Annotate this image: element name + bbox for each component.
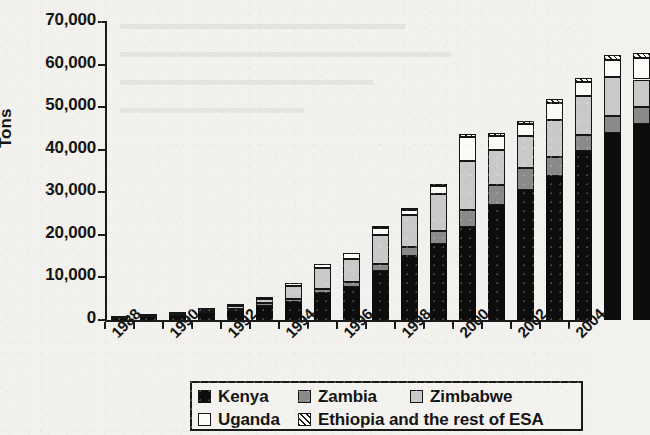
legend-label-kenya: Kenya [218, 387, 269, 407]
bar-segment-zimbabwe [227, 306, 244, 309]
y-axis-tick [98, 106, 105, 108]
bar-segment-uganda [140, 314, 157, 316]
bar-segment-uganda [517, 124, 534, 136]
x-axis-tick [481, 322, 483, 329]
bar-column [575, 78, 592, 320]
bar-segment-zambia [285, 299, 302, 302]
chart-legend: Kenya Zambia Zimbabwe Uganda Ethiopia an… [190, 381, 583, 431]
bar-segment-kenya [430, 244, 447, 320]
bar-segment-zimbabwe [517, 136, 534, 168]
legend-swatch-zambia-icon [298, 390, 311, 403]
bar-segment-kenya [488, 205, 505, 320]
legend-label-zimbabwe: Zimbabwe [430, 387, 512, 407]
bar-segment-zambia [227, 309, 244, 311]
bar-segment-uganda [169, 312, 186, 314]
bar-column [604, 55, 621, 320]
bar-segment-uganda [111, 316, 128, 318]
bar-segment-kenya [314, 293, 331, 320]
y-axis-tick-label: 50,000 [4, 95, 96, 115]
y-axis-tick-label: 10,000 [4, 265, 96, 285]
bar-segment-uganda [256, 297, 273, 299]
bar-segment-kenya [401, 256, 418, 320]
bar-segment-zimbabwe [314, 268, 331, 289]
bar-segment-ethiopia [633, 53, 650, 59]
legend-swatch-kenya-icon [198, 390, 211, 403]
bar-segment-zimbabwe [256, 299, 273, 303]
bar-segment-ethiopia [459, 134, 476, 137]
bar-segment-kenya [546, 176, 563, 320]
bar-segment-zambia [517, 168, 534, 190]
bar-segment-zambia [401, 247, 418, 256]
bar-segment-uganda [314, 264, 331, 268]
x-axis-tick [510, 322, 512, 329]
y-axis-tick [98, 149, 105, 151]
bar-column [372, 227, 389, 320]
bar-segment-zimbabwe [604, 77, 621, 116]
bar-segment-zimbabwe [198, 310, 215, 312]
y-axis-tick-label-wrap: 40,000 [0, 149, 96, 150]
legend-swatch-ethiopia-icon [298, 413, 311, 426]
x-axis-line [105, 320, 589, 322]
y-axis-tick-label-wrap: 50,000 [0, 106, 96, 107]
legend-item-uganda[interactable]: Uganda [198, 410, 282, 430]
bar-segment-kenya [227, 311, 244, 320]
bar-segment-kenya [575, 151, 592, 320]
y-axis-tick [98, 64, 105, 66]
legend-row-1: Kenya Zambia Zimbabwe [198, 385, 581, 408]
y-axis-tick [98, 191, 105, 193]
legend-item-zambia[interactable]: Zambia [298, 387, 394, 407]
bar-segment-zambia [488, 185, 505, 205]
x-axis-tick [336, 322, 338, 329]
bar-column [430, 185, 447, 320]
legend-swatch-zimbabwe-icon [410, 390, 423, 403]
bar-segment-ethiopia [517, 121, 534, 124]
bar-segment-uganda [343, 253, 360, 259]
x-axis-tick [452, 322, 454, 329]
x-axis-tick [162, 322, 164, 329]
bar-segment-ethiopia [488, 133, 505, 136]
x-axis-tick [278, 322, 280, 329]
x-axis-tick [249, 322, 251, 329]
bar-segment-uganda [488, 136, 505, 150]
bar-segment-kenya [343, 287, 360, 320]
y-axis-tick-label-wrap: 70,000 [0, 21, 96, 22]
bar-segment-uganda [459, 137, 476, 161]
bar-segment-kenya [604, 133, 621, 320]
bar-column [488, 133, 505, 320]
bar-segment-zimbabwe [285, 286, 302, 300]
x-axis-tick [133, 322, 135, 329]
bar-segment-ethiopia [546, 99, 563, 103]
bar-segment-kenya [198, 313, 215, 320]
bar-segment-uganda [401, 210, 418, 216]
bar-column [546, 99, 563, 320]
bar-segment-uganda [604, 60, 621, 77]
legend-item-zimbabwe[interactable]: Zimbabwe [410, 387, 512, 407]
y-axis-tick-label-wrap: 10,000 [0, 276, 96, 277]
bar-segment-zimbabwe [343, 259, 360, 282]
bar-segment-zambia [343, 282, 360, 287]
x-axis-tick [104, 322, 106, 329]
bar-column [198, 309, 215, 320]
bar-column [169, 313, 186, 320]
legend-item-ethiopia[interactable]: Ethiopia and the rest of ESA [298, 410, 544, 430]
bar-segment-zambia [575, 135, 592, 150]
y-axis-tick-label: 40,000 [4, 138, 96, 158]
bar-segment-zambia [314, 289, 331, 293]
y-axis-tick [98, 319, 105, 321]
bar-segment-zambia [633, 107, 650, 124]
y-axis-tick-label: 0 [4, 308, 96, 328]
y-axis-tick-label-wrap: 60,000 [0, 64, 96, 65]
bar-segment-zimbabwe [633, 80, 650, 108]
legend-item-kenya[interactable]: Kenya [198, 387, 282, 407]
x-axis-tick [220, 322, 222, 329]
bar-segment-kenya [633, 124, 650, 320]
y-axis-tick [98, 21, 105, 23]
bar-segment-kenya [517, 190, 534, 320]
bar-segment-uganda [546, 103, 563, 120]
bar-segment-zambia [459, 210, 476, 227]
bar-segment-zimbabwe [459, 161, 476, 210]
x-axis-tick [423, 322, 425, 329]
bar-column [459, 134, 476, 320]
y-axis-tick-label: 30,000 [4, 180, 96, 200]
